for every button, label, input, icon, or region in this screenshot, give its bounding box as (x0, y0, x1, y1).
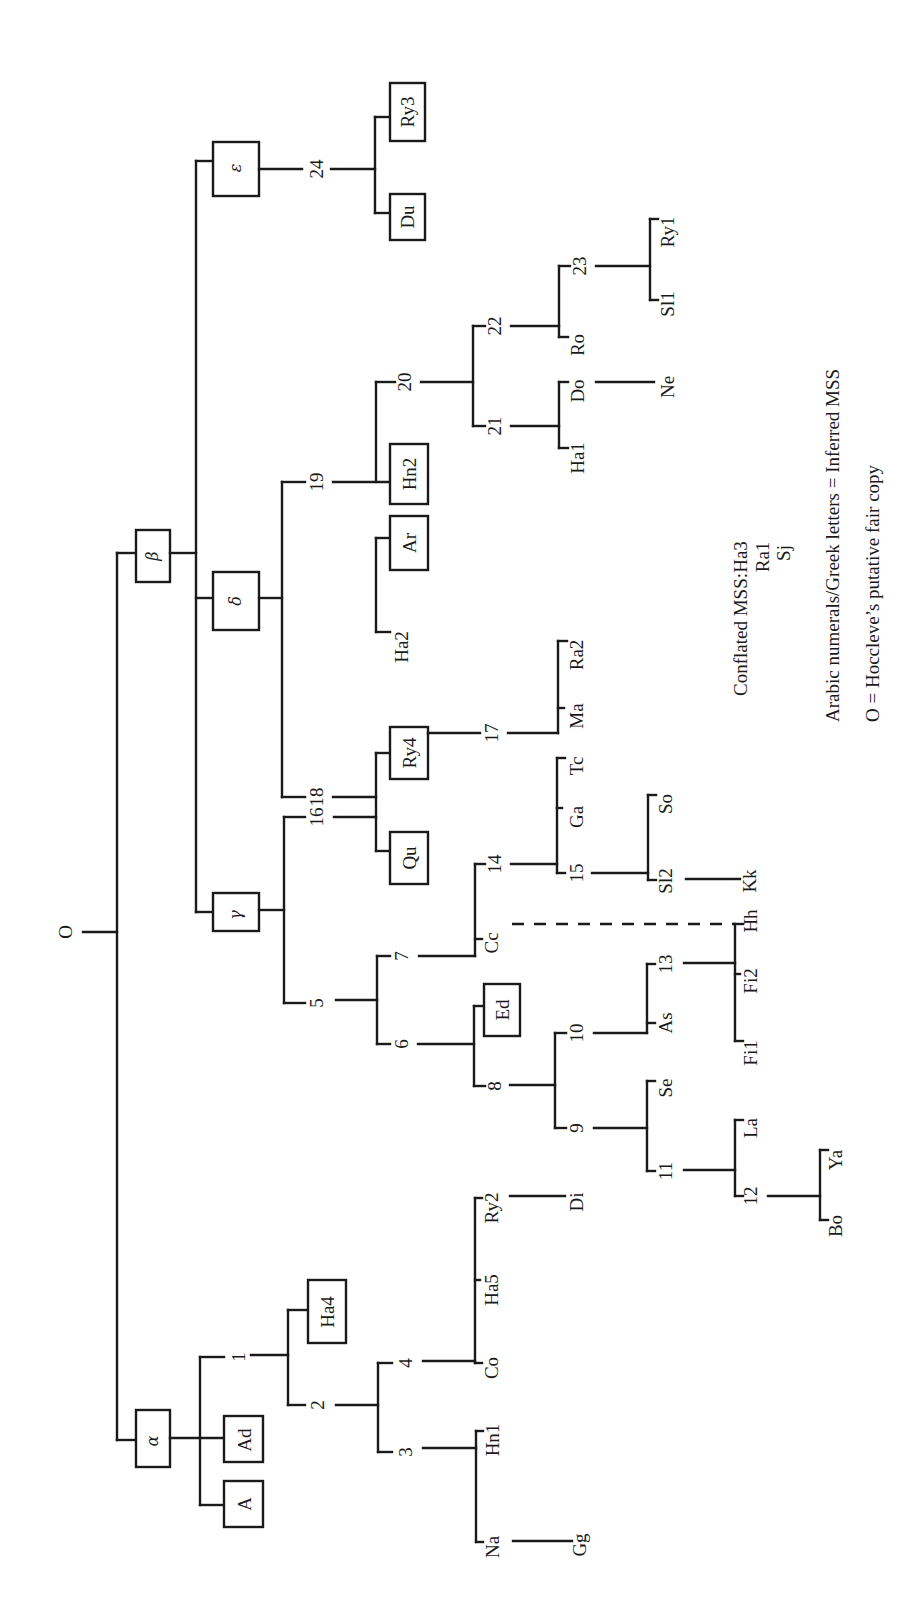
ms-Gg: Gg (569, 1533, 590, 1557)
ms-Ry2: Ry2 (481, 1193, 502, 1224)
node-5: 5 (306, 998, 327, 1008)
ms-La: La (740, 1117, 761, 1138)
ms-Ha4: Ha4 (317, 1296, 338, 1328)
ms-Ga: Ga (566, 805, 587, 828)
conflated-ms-1: Ha3 (730, 541, 751, 573)
node-10: 10 (566, 1024, 587, 1043)
ms-Fi2: Fi2 (740, 968, 761, 993)
node-7: 7 (391, 951, 412, 961)
node-24: 24 (306, 159, 327, 179)
ms-As: As (655, 1012, 676, 1033)
node-14: 14 (484, 854, 505, 874)
node-11: 11 (655, 1162, 676, 1180)
root-label: O (55, 925, 76, 939)
ms-Hh: Hh (740, 909, 761, 933)
epsilon-label: ε (226, 164, 245, 173)
ms-Ma: Ma (566, 703, 587, 729)
ms-Ha5: Ha5 (481, 1274, 502, 1306)
ms-Hn2: Hn2 (399, 458, 420, 491)
ms-Ad: Ad (234, 1428, 255, 1452)
ms-Tc: Tc (566, 757, 587, 776)
delta-label: δ (226, 596, 245, 606)
beta-branch: β (117, 161, 196, 912)
ms-Ed: Ed (492, 999, 513, 1021)
node-18: 18 (306, 788, 327, 807)
ms-Sl2: Sl2 (655, 868, 676, 893)
ms-Di: Di (566, 1193, 587, 1212)
gamma-label: γ (226, 910, 245, 920)
node-12: 12 (740, 1187, 761, 1206)
ms-Ry1: Ry1 (657, 217, 678, 248)
alpha-label: α (143, 1435, 162, 1446)
delta-branch: δ 19 Hn2 20 22 Ro 23 Ry1 Sl1 21 (196, 217, 678, 807)
ms-Ar: Ar (399, 532, 420, 553)
root-note: O = Hoccleve’s putative fair copy (862, 464, 883, 722)
node-9: 9 (566, 1123, 587, 1133)
ms-Se: Se (655, 1079, 676, 1098)
ms-Kk: Kk (739, 869, 760, 893)
stemma-diagram: O β ε 24 Ry3 Du δ 19 (0, 0, 921, 1610)
epsilon-branch: ε 24 Ry3 Du (196, 83, 425, 240)
ms-Du: Du (397, 205, 418, 229)
node-2: 2 (307, 1400, 328, 1410)
node-19: 19 (306, 473, 327, 492)
ms-Ne: Ne (657, 376, 678, 398)
node-13: 13 (655, 955, 676, 974)
legend: Conflated MSS: Ha3 Ra1 Sj Arabic numeral… (730, 369, 883, 722)
node-22: 22 (484, 317, 505, 336)
node-3: 3 (395, 1447, 416, 1457)
node-21: 21 (484, 417, 505, 436)
conflated-ms-3: Sj (773, 545, 794, 561)
ms-A: A (234, 1497, 255, 1511)
ms-Ya: Ya (825, 1149, 846, 1170)
ms-Ry3: Ry3 (397, 97, 418, 128)
conflated-label: Conflated MSS: (730, 573, 751, 696)
ms-Ro: Ro (567, 334, 588, 356)
ms-Ha2: Ha2 (391, 631, 412, 663)
ms-Ha1: Ha1 (567, 442, 588, 474)
ms-Na: Na (482, 1535, 503, 1558)
ms-Bo: Bo (825, 1215, 846, 1237)
alpha-branch: α Ad A 1 Ha4 2 4 Ry2 Ha5 Co Di (117, 1193, 590, 1559)
ms-Qu: Qu (399, 846, 420, 870)
node-8: 8 (484, 1081, 505, 1091)
ms-Sl1: Sl1 (657, 291, 678, 316)
ms-Fi1: Fi1 (740, 1040, 761, 1065)
inferred-note: Arabic numerals/Greek letters = Inferred… (822, 369, 843, 722)
conflated-ms-2: Ra1 (752, 542, 773, 573)
ms-Do: Do (567, 379, 588, 402)
ms-Hn1: Hn1 (482, 1424, 503, 1457)
node-1: 1 (228, 1352, 249, 1362)
ms-Co: Co (481, 1357, 502, 1379)
ms-Cc: Cc (481, 932, 502, 953)
node-15: 15 (566, 864, 587, 883)
node-17: 17 (481, 724, 502, 743)
node-4: 4 (395, 1358, 416, 1368)
beta-label: β (143, 551, 162, 561)
gamma-branch: γ 16 Ry4 Qu 17 Ra2 Ma 5 7 Cc (196, 640, 846, 1237)
node-16: 16 (306, 808, 327, 827)
ms-Ra2: Ra2 (566, 640, 587, 671)
ms-So: So (655, 794, 676, 814)
node-20: 20 (394, 373, 415, 392)
node-6: 6 (391, 1039, 412, 1049)
ms-Ry4: Ry4 (399, 737, 420, 768)
node-23: 23 (569, 257, 590, 276)
root-node: O (55, 553, 117, 1440)
